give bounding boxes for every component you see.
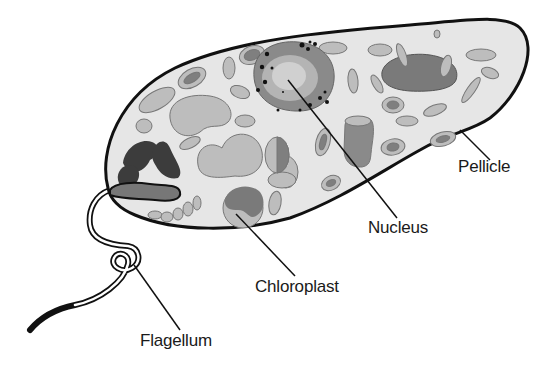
flagellum-label: Flagellum bbox=[140, 332, 212, 349]
nucleus bbox=[254, 41, 334, 112]
euglena-illustration bbox=[0, 0, 550, 373]
chloroplast-label: Chloroplast bbox=[255, 278, 339, 295]
flagellum-leader bbox=[134, 265, 180, 330]
flagellum bbox=[30, 190, 138, 330]
nucleus-label: Nucleus bbox=[368, 219, 428, 236]
euglena-diagram: Pellicle Nucleus Chloroplast Flagellum bbox=[0, 0, 550, 373]
pellicle-label: Pellicle bbox=[458, 158, 510, 175]
reservoir bbox=[110, 183, 180, 201]
pellicle-leader bbox=[460, 130, 490, 160]
